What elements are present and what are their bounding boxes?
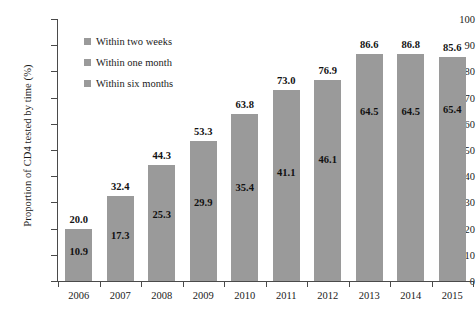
bar-value-label-two-weeks: 65.4 [429,104,475,115]
x-axis-tick [432,281,433,287]
bar-value-label-six-months: 86.8 [388,39,434,50]
x-axis-tick [307,281,308,287]
bar-value-label-six-months: 76.9 [305,65,351,76]
bar [439,57,466,281]
bar [314,80,341,281]
x-axis-tick [266,281,267,287]
legend-item: Within two weeks [84,31,173,52]
bar-value-label-six-months: 86.6 [346,39,392,50]
bar-value-label-six-months: 85.6 [429,42,475,53]
legend-item: Within one month [84,52,173,73]
x-axis-tick [183,281,184,287]
bar-value-label-two-weeks: 25.3 [139,209,185,220]
bar [356,54,383,281]
x-axis-tick [473,281,474,287]
legend-swatch-icon [84,80,91,87]
bar-value-label-six-months: 53.3 [180,126,226,137]
x-axis-tick [141,281,142,287]
x-axis-tick [349,281,350,287]
x-axis-tick [100,281,101,287]
bar [148,165,175,281]
x-axis-tick [390,281,391,287]
legend-item-label: Within six months [96,78,173,89]
legend-item-label: Within one month [96,57,172,68]
legend-item-label: Within two weeks [96,36,172,47]
bar [231,114,258,281]
bar-value-label-two-weeks: 10.9 [56,246,102,257]
bar [273,90,300,281]
bar-value-label-two-weeks: 17.3 [97,230,143,241]
legend-item: Within six months [84,73,173,94]
x-axis-tick [58,281,59,287]
bar-value-label-two-weeks: 46.1 [305,154,351,165]
bar-value-label-six-months: 63.8 [222,99,268,110]
legend-swatch-icon [84,38,91,45]
bar [190,141,217,281]
x-axis-tick-label: 2015 [428,290,476,301]
bar-value-label-two-weeks: 64.5 [346,106,392,117]
bar-value-label-two-weeks: 35.4 [222,182,268,193]
bar-value-label-six-months: 73.0 [263,75,309,86]
bar-value-label-two-weeks: 29.9 [180,197,226,208]
bar-value-label-six-months: 20.0 [56,214,102,225]
bar-value-label-six-months: 44.3 [139,150,185,161]
bar-value-label-two-weeks: 41.1 [263,167,309,178]
bar-value-label-two-weeks: 64.5 [388,106,434,117]
y-axis-title: Proportion of CD4 tested by time (%) [22,31,33,261]
chart-legend: Within two weeksWithin one monthWithin s… [84,31,173,94]
bar [397,54,424,281]
legend-swatch-icon [84,59,91,66]
bar-value-label-six-months: 32.4 [97,181,143,192]
x-axis-tick [224,281,225,287]
